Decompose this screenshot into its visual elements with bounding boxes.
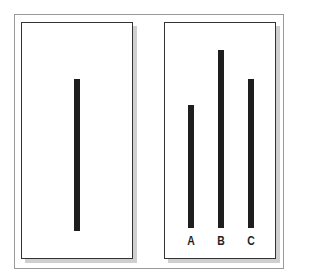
comparison-line-b <box>218 50 224 228</box>
label-b: B <box>216 233 226 248</box>
label-c: C <box>246 233 256 248</box>
reference-line <box>74 79 80 231</box>
comparison-line-a <box>188 105 194 228</box>
comparison-line-c <box>248 79 254 228</box>
label-a: A <box>186 233 196 248</box>
